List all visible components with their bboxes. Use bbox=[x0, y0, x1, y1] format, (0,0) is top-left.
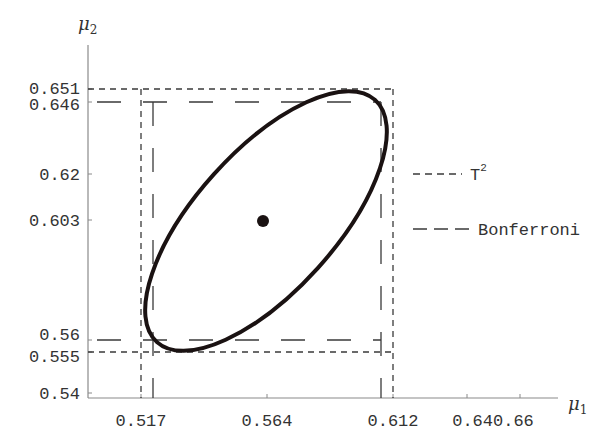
y-axis-label: μ2 bbox=[78, 13, 97, 37]
x-tick-label: 0.517 bbox=[115, 412, 166, 431]
legend: T2 Bonferroni bbox=[413, 162, 580, 240]
x-tick-label: 0.564 bbox=[241, 412, 292, 431]
legend-t2-label: T2 bbox=[470, 162, 487, 185]
y-tick-label: 0.646 bbox=[29, 96, 80, 115]
y-tick-label: 0.54 bbox=[39, 385, 80, 404]
y-tick-label: 0.603 bbox=[29, 212, 80, 231]
confidence-region-chart: 0.651 0.646 0.62 0.603 0.56 0.555 0.54 0… bbox=[0, 0, 613, 448]
y-tick-label: 0.62 bbox=[39, 166, 80, 185]
y-tick-label: 0.555 bbox=[29, 348, 80, 367]
y-tick-label: 0.56 bbox=[39, 326, 80, 345]
sample-mean-point bbox=[257, 215, 269, 227]
x-tick-label: 0.640.66 bbox=[452, 412, 534, 431]
x-tick-label: 0.612 bbox=[367, 412, 418, 431]
x-axis-label: μ1 bbox=[568, 393, 587, 417]
legend-bonferroni-label: Bonferroni bbox=[478, 221, 580, 240]
t2-intervals bbox=[88, 89, 393, 398]
